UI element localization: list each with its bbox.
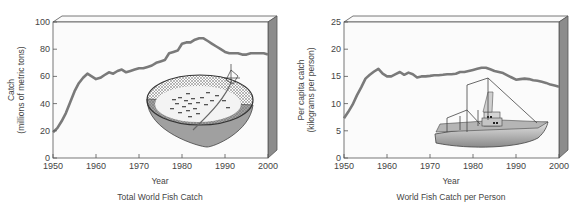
chart-title: World Fish Catch per Person xyxy=(397,192,506,202)
x-tick-label: 1950 xyxy=(43,161,63,171)
x-axis-label: Year xyxy=(442,176,459,186)
y-axis-label-line2: (kilograms per person) xyxy=(306,47,316,132)
y-tick-label: 10 xyxy=(331,99,341,109)
y-tick-label: 5 xyxy=(336,126,341,136)
y-tick-label: 25 xyxy=(331,17,341,27)
plot-top-face xyxy=(344,16,568,22)
y-axis-label-line1: Catch xyxy=(6,79,16,101)
x-tick-label: 2000 xyxy=(258,161,278,171)
chart-per-capita-catch: 0510152025 195019601970198019902000 Per … xyxy=(296,16,569,202)
x-tick-label: 1990 xyxy=(215,161,235,171)
x-tick-label: 1980 xyxy=(463,161,483,171)
y-tick-label: 40 xyxy=(40,99,50,109)
x-tick-label: 1980 xyxy=(172,161,192,171)
plot-top-face xyxy=(53,16,277,22)
y-axis-label-line1: Per capita catch xyxy=(296,59,306,120)
chart-total-catch: 020406080100 195019601970198019902000 Ca… xyxy=(6,16,278,202)
y-tick-label: 20 xyxy=(40,126,50,136)
x-tick-label: 1960 xyxy=(86,161,106,171)
figure-canvas: 020406080100 195019601970198019902000 Ca… xyxy=(0,0,579,216)
plot-side-face xyxy=(268,16,277,158)
y-axis-label-line2: (millions of metric tons) xyxy=(16,46,26,134)
x-tick-label: 1950 xyxy=(334,161,354,171)
chart-title: Total World Fish Catch xyxy=(117,192,203,202)
plot-side-face xyxy=(559,16,568,158)
x-tick-label: 1990 xyxy=(506,161,526,171)
y-tick-label: 80 xyxy=(40,44,50,54)
y-tick-label: 60 xyxy=(40,71,50,81)
x-tick-label: 1960 xyxy=(377,161,397,171)
y-tick-label: 20 xyxy=(331,44,341,54)
y-tick-label: 100 xyxy=(35,17,50,27)
x-tick-label: 2000 xyxy=(549,161,569,171)
x-axis-label: Year xyxy=(151,176,168,186)
y-tick-label: 15 xyxy=(331,71,341,81)
x-tick-label: 1970 xyxy=(420,161,440,171)
x-tick-label: 1970 xyxy=(129,161,149,171)
